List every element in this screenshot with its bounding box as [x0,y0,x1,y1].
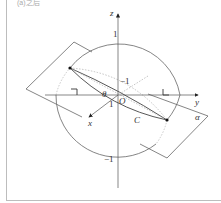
right-angle-mark-right [163,89,169,95]
y-axis-label: y [194,97,199,107]
curve-c-label: C [134,115,141,125]
plane-alpha [26,42,208,158]
z-tick-bottom: −1 [104,154,114,164]
x-axis-label: x [87,118,92,128]
x-tick-far: −1 [120,76,130,86]
z-axis-label: z [109,8,114,18]
point-lower [165,118,168,121]
origin-label: O [119,96,126,106]
point-upper [68,66,71,69]
curve-c [70,68,167,120]
angle-theta-label: θ [102,89,107,99]
right-angle-mark-left [71,89,77,95]
plane-alpha-label: α [195,112,200,122]
z-tick-top: 1 [113,29,118,39]
x-tick-near: 1 [109,99,114,109]
sphere-plane-diagram: z y x O 1 −1 1 −1 θ C α [0,0,221,203]
